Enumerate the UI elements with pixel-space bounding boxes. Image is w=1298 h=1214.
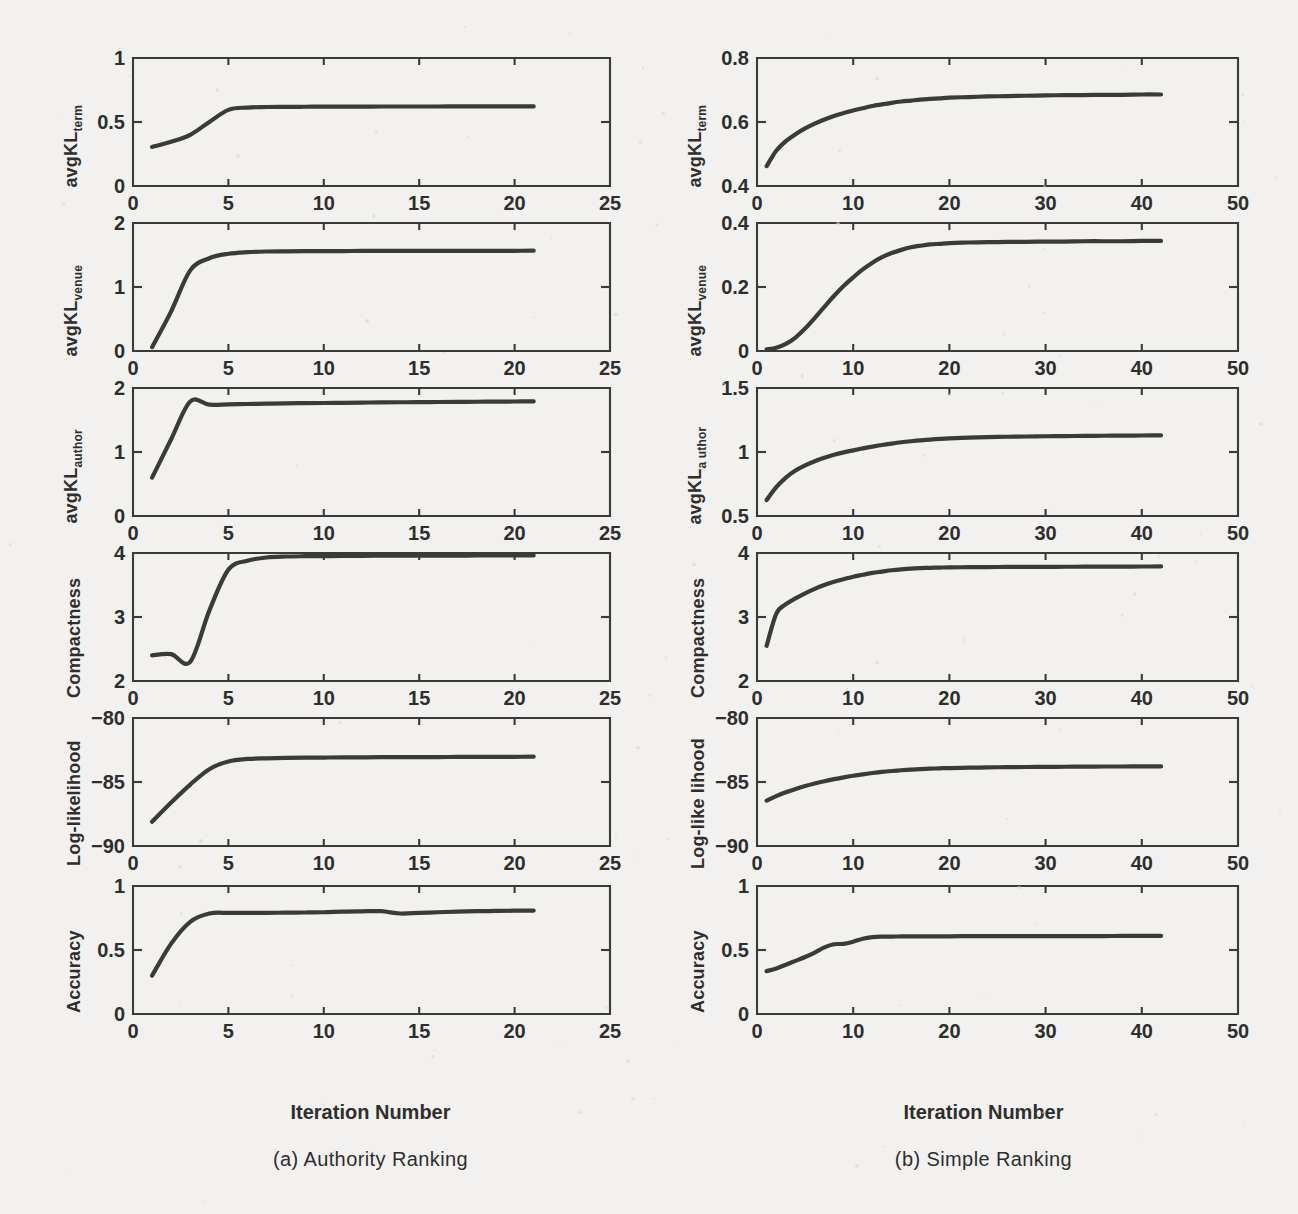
y-tick-label: −80 [91, 707, 125, 729]
x-tick-label: 5 [223, 1020, 234, 1042]
paper-speckle [1052, 511, 1054, 513]
panel-b1: avgKLterm010203040500.40.60.8 [649, 28, 1298, 193]
x-tick-label: 15 [408, 1020, 430, 1042]
paper-speckle [578, 1111, 581, 1114]
y-tick-label: 0 [114, 1003, 125, 1025]
plot-b6: 0102030405000.51 [649, 856, 1264, 1044]
x-tick-label: 10 [313, 1020, 335, 1042]
y-tick-label: 0.4 [721, 212, 750, 234]
paper-speckle [199, 839, 203, 843]
subfigure-caption-b: (b) Simple Ranking [659, 1148, 1298, 1171]
paper-speckle [838, 149, 841, 152]
y-tick-label: 0 [738, 1003, 749, 1025]
y-tick-label: 0.5 [97, 939, 125, 961]
panel-a4: Compactness0510152025234 [0, 523, 649, 688]
paper-speckle [559, 1045, 561, 1047]
plot-frame [757, 388, 1238, 516]
x-axis-title-a: Iteration Number [46, 1101, 695, 1124]
plot-frame [133, 388, 610, 516]
data-series-line [767, 435, 1161, 500]
y-tick-label: 1.5 [721, 377, 749, 399]
paper-speckle [642, 1209, 643, 1210]
plot-frame [757, 58, 1238, 186]
paper-speckle [9, 543, 12, 546]
paper-speckle [1058, 355, 1060, 357]
plot-frame [757, 886, 1238, 1014]
plot-b5: 01020304050−90−85−80 [649, 688, 1264, 876]
y-tick-label: −90 [91, 835, 125, 857]
paper-speckle [833, 439, 836, 442]
x-tick-label: 20 [503, 1020, 525, 1042]
x-tick-label: 30 [1034, 1020, 1056, 1042]
data-series-line [767, 936, 1161, 971]
y-tick-label: 0.2 [721, 276, 749, 298]
paper-speckle [1142, 1135, 1144, 1137]
panel-a1: avgKLterm051015202500.51 [0, 28, 649, 193]
data-series-line [152, 251, 534, 347]
panel-b6: Accuracy0102030405000.51 [649, 856, 1298, 1021]
paper-speckle [922, 454, 925, 457]
paper-speckle [653, 1098, 655, 1100]
paper-speckle [467, 136, 469, 138]
paper-speckle [801, 374, 804, 377]
x-tick-label: 50 [1227, 1020, 1249, 1042]
paper-speckle [1001, 392, 1004, 395]
y-tick-label: 0.8 [721, 47, 749, 69]
panel-b5: Log-like lihood01020304050−90−85−80 [649, 688, 1298, 853]
x-tick-label: 40 [1131, 1020, 1153, 1042]
paper-speckle [1251, 685, 1254, 688]
y-tick-label: 4 [114, 542, 126, 564]
paper-speckle [664, 456, 665, 457]
paper-speckle [1002, 957, 1003, 958]
y-tick-label: 3 [114, 606, 125, 628]
y-tick-label: 1 [114, 276, 125, 298]
paper-speckle [908, 564, 909, 565]
paper-speckle [1028, 285, 1031, 288]
paper-speckle [372, 214, 376, 218]
paper-speckle [1276, 176, 1278, 178]
paper-speckle [631, 1097, 634, 1100]
y-tick-label: −85 [715, 771, 749, 793]
paper-speckle [1006, 818, 1008, 820]
data-series-line [152, 757, 534, 822]
paper-speckle [1244, 1121, 1246, 1123]
paper-speckle [204, 1201, 206, 1203]
plot-frame [133, 58, 610, 186]
paper-speckle [1121, 614, 1124, 617]
paper-speckle [535, 641, 536, 642]
plot-a5: 0510152025−90−85−80 [0, 688, 636, 876]
paper-speckle [1195, 560, 1197, 562]
panel-a6: Accuracy051015202500.51 [0, 856, 649, 1021]
paper-speckle [164, 657, 166, 659]
plot-frame [133, 223, 610, 351]
panel-a2: avgKLvenue0510152025012 [0, 193, 649, 358]
x-tick-label: 0 [127, 1020, 138, 1042]
paper-speckle [168, 878, 169, 879]
figure-column-authority-ranking: avgKLterm051015202500.51 avgKLvenue05101… [0, 0, 649, 1214]
plot-frame [133, 718, 610, 846]
paper-speckle [380, 477, 381, 478]
plot-frame [133, 553, 610, 681]
plot-a4: 0510152025234 [0, 523, 636, 711]
data-series-line [767, 241, 1161, 350]
y-tick-label: 0.5 [721, 939, 749, 961]
x-tick-label: 10 [842, 1020, 864, 1042]
plot-b3: 010203040500.511.5 [649, 358, 1264, 546]
paper-speckle [1043, 312, 1045, 314]
plot-a1: 051015202500.51 [0, 28, 636, 216]
data-series-line [767, 566, 1161, 645]
y-tick-label: 1 [738, 441, 749, 463]
paper-speckle [550, 237, 552, 239]
paper-speckle [1155, 1113, 1158, 1116]
data-series-line [152, 555, 534, 663]
paper-speckle [882, 1146, 884, 1148]
paper-speckle [1095, 404, 1097, 406]
paper-speckle [102, 117, 103, 118]
paper-speckle [642, 67, 644, 69]
paper-speckle [533, 316, 535, 318]
paper-speckle [837, 729, 839, 731]
y-tick-label: 0.5 [97, 111, 125, 133]
y-tick-label: 2 [114, 212, 125, 234]
paper-speckle [1157, 555, 1160, 558]
paper-speckle [655, 223, 658, 226]
